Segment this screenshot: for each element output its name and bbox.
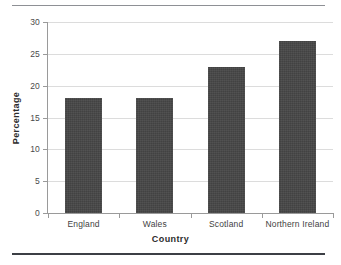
y-tick-label: 15: [30, 113, 40, 123]
bar: [208, 67, 245, 213]
y-tick-mark-20: [43, 86, 48, 87]
x-tick-label: Wales: [143, 219, 167, 229]
y-tick-mark-30: [43, 22, 48, 23]
x-tick-mark: [262, 213, 263, 218]
gridline-30: [48, 22, 333, 23]
x-axis-title: Country: [0, 234, 341, 244]
bar: [65, 98, 102, 213]
y-tick-mark-15: [43, 118, 48, 119]
x-tick-mark: [48, 213, 49, 218]
y-tick-label: 25: [30, 49, 40, 59]
y-axis-title: Percentage: [11, 92, 21, 145]
x-tick-label: England: [68, 219, 100, 229]
y-tick-label: 30: [30, 17, 40, 27]
y-tick-mark-5: [43, 181, 48, 182]
x-tick-label: Scotland: [209, 219, 243, 229]
y-tick-label: 10: [30, 144, 40, 154]
x-tick-mark: [333, 213, 334, 218]
y-tick-label: 20: [30, 81, 40, 91]
y-tick-label: 0: [35, 208, 40, 218]
x-tick-mark: [191, 213, 192, 218]
bar-chart-figure: 051015202530 EnglandWalesScotlandNorther…: [0, 0, 341, 265]
x-tick-mark: [119, 213, 120, 218]
y-tick-mark-25: [43, 54, 48, 55]
bar: [279, 41, 316, 213]
x-tick-label: Northern Ireland: [265, 219, 329, 229]
y-tick-mark-10: [43, 149, 48, 150]
y-tick-label: 5: [35, 176, 40, 186]
top-divider-rule: [12, 5, 325, 6]
bottom-divider-rule: [12, 253, 325, 255]
bar: [136, 98, 173, 213]
plot-area: 051015202530: [48, 22, 333, 213]
